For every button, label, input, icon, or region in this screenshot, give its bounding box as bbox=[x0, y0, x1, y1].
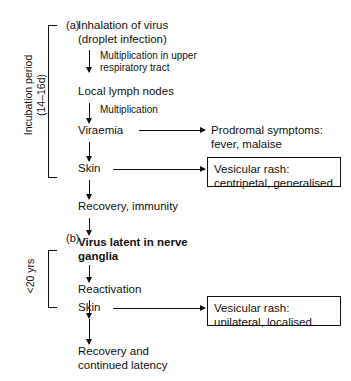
node-recovery-continued-latency: Recovery and continued latency bbox=[78, 345, 258, 372]
arrow-lymph-to-viraemia bbox=[89, 103, 90, 123]
arrow-latent-to-reactivation bbox=[89, 265, 90, 282]
outcome-prodromal-symptoms: Prodromal symptoms: fever, malaise bbox=[211, 124, 351, 151]
node-recovery-immunity: Recovery, immunity bbox=[78, 200, 238, 214]
edge-label-multiplication-upper: Multiplication in upper respiratory trac… bbox=[100, 50, 240, 74]
arrow-recovery-to-latent bbox=[89, 218, 90, 235]
arrow-skin-to-rash-b bbox=[113, 308, 205, 309]
outcome-rash-a-text: Vesicular rash: centripetal, generalised bbox=[214, 162, 333, 190]
latency-duration-bracket bbox=[48, 250, 57, 308]
pathogenesis-flowchart: (a) Incubation period (14–16d) Inhalatio… bbox=[0, 0, 351, 381]
node-virus-latent: Virus latent in nerve ganglia bbox=[78, 236, 243, 263]
incubation-period-bracket bbox=[48, 25, 57, 178]
arrow-skin-to-recovery bbox=[89, 180, 90, 199]
node-reactivation: Reactivation bbox=[78, 283, 218, 297]
latency-duration-label: <20 yrs bbox=[24, 247, 37, 305]
outcome-box-rash-b: Vesicular rash: unilateral, localised bbox=[207, 296, 341, 326]
outcome-box-rash-a: Vesicular rash: centripetal, generalised bbox=[207, 157, 341, 187]
arrow-inhalation-to-lymph bbox=[89, 50, 90, 72]
incubation-period-label: Incubation period (14–16d) bbox=[22, 20, 47, 170]
arrow-viraemia-to-prodromal bbox=[139, 130, 205, 131]
node-inhalation: Inhalation of virus (droplet infection) bbox=[78, 19, 238, 46]
arrow-viraemia-to-skin bbox=[89, 142, 90, 161]
arrow-skin-to-rash-a bbox=[113, 169, 205, 170]
edge-label-multiplication: Multiplication bbox=[100, 104, 240, 116]
node-local-lymph-nodes: Local lymph nodes bbox=[78, 85, 238, 99]
outcome-rash-b-text: Vesicular rash: unilateral, localised bbox=[214, 301, 312, 329]
arrow-skin-to-recovery-latency bbox=[89, 319, 90, 344]
